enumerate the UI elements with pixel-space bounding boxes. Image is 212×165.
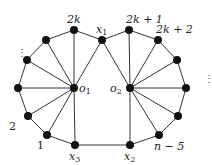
edge-o1-x1: [74, 40, 102, 88]
ellipsis-1: ⋮: [204, 73, 212, 84]
node-x1: [98, 36, 106, 44]
edge-vL3-vL2: [18, 60, 27, 88]
edge-v2k1-v2k2: [129, 30, 158, 40]
node-v2: [24, 112, 32, 120]
edge-o2-vn5: [130, 88, 159, 135]
node-vR3: [174, 112, 182, 120]
node-label-o2: o2: [110, 82, 122, 96]
node-x2: [126, 141, 134, 149]
edge-o2-vR1: [130, 60, 177, 88]
node-label-v2k2: 2k + 2: [155, 23, 193, 36]
node-label-o1: o1: [79, 82, 91, 96]
edge-vR3-vn5: [159, 116, 178, 135]
edge-vL2-vL1: [27, 40, 46, 60]
node-vL1: [42, 36, 50, 44]
node-v2k1: [125, 26, 133, 34]
node-v1: [43, 131, 51, 139]
edge-v1-v2: [28, 116, 47, 135]
edge-x3-v1: [47, 135, 75, 145]
edges-layer: [18, 30, 186, 145]
edge-v2k2-vR1: [158, 40, 177, 60]
node-label-v1: 1: [37, 139, 44, 152]
node-label-x2: x2: [124, 150, 135, 164]
node-label-v2: 2: [9, 120, 16, 133]
edge-o2-v2k2: [130, 40, 158, 88]
node-label-v2k: 2k: [66, 13, 81, 26]
edge-o1-vL1: [46, 40, 74, 88]
edge-o1-v2: [28, 88, 74, 116]
node-x3: [71, 141, 79, 149]
graph-diagram: o1o2x1x2x32k212k + 12k + 2n − 5 ⋮⋮: [0, 0, 212, 165]
node-v2k: [70, 26, 78, 34]
node-label-x3: x3: [69, 150, 80, 164]
edge-o2-v2k1: [129, 30, 130, 88]
node-vn5: [155, 131, 163, 139]
edge-o1-v1: [47, 88, 74, 135]
edge-o2-vR3: [130, 88, 178, 116]
edge-vL1-v2k: [46, 30, 74, 40]
edge-o1-vL2: [27, 60, 74, 88]
node-vR2: [182, 84, 190, 92]
edge-vR1-vR2: [177, 60, 186, 88]
node-vL3: [14, 84, 22, 92]
edge-v2-vL3: [18, 88, 28, 116]
edge-o1-x3: [74, 88, 75, 145]
node-v2k2: [154, 36, 162, 44]
node-o2: [126, 84, 134, 92]
ellipsis-0: ⋮: [17, 47, 27, 58]
node-o1: [70, 84, 78, 92]
node-label-x1: x1: [96, 23, 107, 37]
node-vR1: [173, 56, 181, 64]
edge-o2-x1: [102, 40, 130, 88]
node-label-vn5: n − 5: [154, 140, 184, 153]
edge-vR2-vR3: [178, 88, 186, 116]
